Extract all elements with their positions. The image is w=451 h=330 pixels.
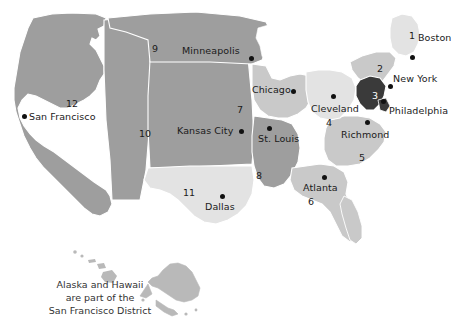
inset-caption-line-1: Alaska and Hawaii	[0, 278, 200, 291]
hawaii-island-maui	[97, 263, 106, 269]
district-number-1[interactable]: 1	[409, 30, 415, 41]
district-number-7[interactable]: 7	[237, 104, 243, 115]
city-label-atlanta[interactable]: Atlanta	[303, 183, 338, 193]
city-dot-new-york[interactable]	[388, 84, 393, 89]
city-dot-richmond[interactable]	[365, 120, 370, 125]
inset-caption-line-3: San Francisco District	[0, 304, 200, 317]
city-label-new-york[interactable]: New York	[393, 74, 437, 84]
hawaii-island-kauai	[73, 250, 77, 254]
city-dot-philadelphia[interactable]	[381, 99, 386, 104]
city-dot-kansas-city[interactable]	[239, 129, 244, 134]
district-number-5[interactable]: 5	[359, 152, 365, 163]
city-label-chicago[interactable]: Chicago	[252, 85, 291, 95]
hawaii-island-oahu	[80, 254, 83, 257]
district-number-6[interactable]: 6	[308, 196, 314, 207]
district-12-interior	[104, 16, 152, 200]
city-dot-atlanta[interactable]	[322, 175, 327, 180]
city-label-boston[interactable]: Boston	[418, 33, 451, 43]
district-number-2[interactable]: 2	[377, 63, 383, 74]
district-5-region[interactable]	[324, 116, 386, 166]
city-label-cleveland[interactable]: Cleveland	[311, 104, 359, 114]
city-label-minneapolis[interactable]: Minneapolis	[182, 46, 240, 56]
city-dot-chicago[interactable]	[291, 89, 296, 94]
district-number-4[interactable]: 4	[326, 117, 332, 128]
city-dot-san-francisco[interactable]	[22, 114, 27, 119]
city-dot-dallas[interactable]	[220, 194, 225, 199]
city-dot-st-louis[interactable]	[267, 126, 272, 131]
district-number-3[interactable]: 3	[372, 90, 378, 101]
city-label-dallas[interactable]: Dallas	[205, 202, 235, 212]
district-number-11[interactable]: 11	[183, 187, 195, 198]
district-number-10[interactable]: 10	[139, 128, 151, 139]
city-label-san-francisco[interactable]: San Francisco	[29, 112, 96, 122]
district-number-8[interactable]: 8	[256, 170, 262, 181]
city-label-st-louis[interactable]: St. Louis	[258, 134, 299, 144]
district-1-region[interactable]	[390, 14, 420, 56]
city-label-kansas-city[interactable]: Kansas City	[177, 126, 233, 136]
inset-caption-line-2: are part of the	[0, 291, 200, 304]
city-label-richmond[interactable]: Richmond	[341, 130, 389, 140]
city-dot-cleveland[interactable]	[331, 94, 336, 99]
district-number-12[interactable]: 12	[66, 98, 78, 109]
city-dot-boston[interactable]	[410, 55, 415, 60]
hawaii-island-molokai	[88, 259, 96, 263]
city-dot-minneapolis[interactable]	[249, 56, 254, 61]
city-label-philadelphia[interactable]: Philadelphia	[389, 106, 448, 116]
inset-caption: Alaska and Hawaii are part of the San Fr…	[0, 278, 200, 317]
district-number-9[interactable]: 9	[152, 43, 158, 54]
district-11-region[interactable]	[144, 166, 254, 224]
